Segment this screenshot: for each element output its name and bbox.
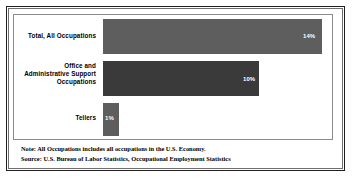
chart-footnotes: Note: All Occupations includes all occup… [21, 144, 321, 164]
category-label-tellers: Tellers [14, 114, 96, 122]
bar-office-admin-support [103, 61, 259, 96]
source-text: Source: U.S. Bureau of Labor Statistics,… [21, 154, 321, 164]
bar-value-label-tellers: 1% [105, 114, 114, 122]
bar-value-label-office-admin-support: 10% [243, 75, 255, 83]
category-label-office-admin-support: Office and Administrative Support Occupa… [14, 62, 96, 86]
bar-total-all-occupations [103, 19, 322, 54]
bar-value-label-total-all-occupations: 14% [303, 32, 315, 40]
note-text: Note: All Occupations includes all occup… [21, 144, 321, 154]
chart-figure: Total, All Occupations 14% Office and Ad… [0, 0, 357, 181]
category-label-total-all-occupations: Total, All Occupations [14, 32, 96, 40]
